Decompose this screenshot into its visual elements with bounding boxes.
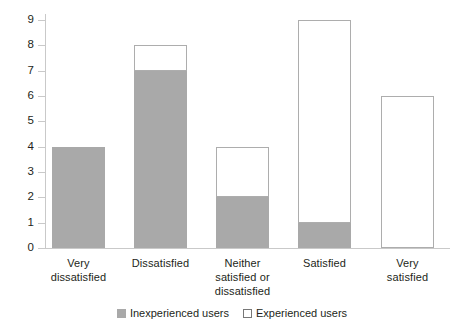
legend-item-label: Experienced users xyxy=(256,307,347,319)
bar-segment-experienced[interactable] xyxy=(134,45,187,70)
x-axis-category-label-line: dissatisfied xyxy=(198,284,288,298)
x-axis-category-label-line: satisfied or xyxy=(198,270,288,284)
bar-group[interactable] xyxy=(52,14,105,248)
y-axis-label: 0 xyxy=(16,242,34,253)
y-axis-label: 9 xyxy=(16,14,34,25)
y-axis-tick xyxy=(38,147,46,148)
bar-group[interactable] xyxy=(298,14,351,248)
x-axis-category-label: Satisfied xyxy=(280,256,370,270)
bar-segment-experienced[interactable] xyxy=(381,96,434,248)
bar-segment-inexperienced[interactable] xyxy=(216,197,269,248)
bar-segment-inexperienced[interactable] xyxy=(298,223,351,248)
y-axis-label: 7 xyxy=(16,65,34,76)
bar-segment-experienced[interactable] xyxy=(298,20,351,223)
y-axis-tick xyxy=(38,223,46,224)
bar-group[interactable] xyxy=(381,14,434,248)
x-axis-category-label-line: Neither xyxy=(198,256,288,270)
x-axis-category-label: Verydissatisfied xyxy=(34,256,124,284)
bar-segment-inexperienced[interactable] xyxy=(52,147,105,248)
y-axis-tick xyxy=(38,121,46,122)
legend-item-label: Inexperienced users xyxy=(130,307,229,319)
y-axis-label: 2 xyxy=(16,191,34,202)
x-axis-category-label: Verysatisfied xyxy=(363,256,453,284)
y-axis-label: 6 xyxy=(16,90,34,101)
y-axis-tick xyxy=(38,45,46,46)
y-axis-label: 5 xyxy=(16,115,34,126)
filled-gray-swatch xyxy=(117,309,126,318)
y-axis-label: 1 xyxy=(16,217,34,228)
satisfaction-stacked-bar-chart: 0123456789 VerydissatisfiedDissatisfiedN… xyxy=(0,0,464,330)
legend-item[interactable]: Experienced users xyxy=(243,307,347,319)
bar-group[interactable] xyxy=(216,14,269,248)
y-axis-label: 3 xyxy=(16,166,34,177)
y-axis-tick xyxy=(38,248,46,249)
y-axis-tick xyxy=(38,172,46,173)
outlined-white-swatch xyxy=(243,309,252,318)
bar-segment-inexperienced[interactable] xyxy=(134,71,187,248)
y-axis-label: 4 xyxy=(16,141,34,152)
legend-item[interactable]: Inexperienced users xyxy=(117,307,229,319)
x-axis-category-label-line: Very xyxy=(34,256,124,270)
x-axis-category-label-line: dissatisfied xyxy=(34,270,124,284)
y-axis-tick xyxy=(38,197,46,198)
y-axis-tick xyxy=(38,96,46,97)
x-axis-category-label-line: Very xyxy=(363,256,453,270)
y-axis-label: 8 xyxy=(16,39,34,50)
y-axis-tick xyxy=(38,20,46,21)
x-axis-line xyxy=(45,248,450,249)
x-axis-category-label-line: satisfied xyxy=(363,270,453,284)
bar-segment-experienced[interactable] xyxy=(216,147,269,198)
chart-legend: Inexperienced usersExperienced users xyxy=(0,307,464,319)
y-axis-tick xyxy=(38,71,46,72)
bar-group[interactable] xyxy=(134,14,187,248)
x-axis-category-label-line: Satisfied xyxy=(280,256,370,270)
x-axis-category-label: Neithersatisfied ordissatisfied xyxy=(198,256,288,298)
plot-area xyxy=(46,14,450,248)
x-axis-category-label: Dissatisfied xyxy=(116,256,206,270)
x-axis-category-label-line: Dissatisfied xyxy=(116,256,206,270)
